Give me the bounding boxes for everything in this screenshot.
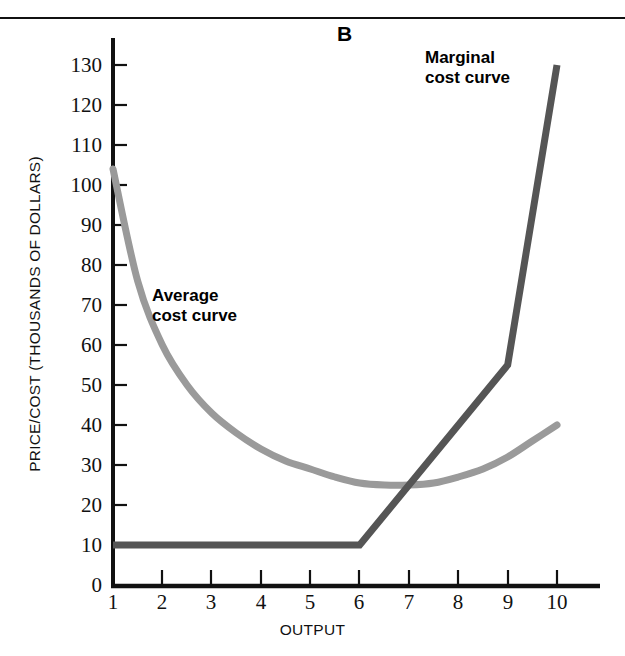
y-tick-label: 60: [44, 335, 102, 356]
y-tick-label: 80: [44, 255, 102, 276]
x-tick-label: 3: [191, 592, 231, 613]
y-tick-label: 70: [44, 295, 102, 316]
y-tick-label: 110: [44, 135, 102, 156]
y-tick-label: 100: [44, 175, 102, 196]
y-tick-label: 120: [44, 95, 102, 116]
x-tick-label: 8: [438, 592, 478, 613]
x-tick-label: 9: [488, 592, 528, 613]
x-tick-label: 5: [290, 592, 330, 613]
marginal-cost-curve-label: Marginal cost curve: [425, 48, 510, 88]
y-tick-label: 30: [44, 455, 102, 476]
y-tick-marks: [113, 65, 127, 545]
cost-curves-figure: B PRICE/COST (THOUSANDS OF DOLLARS) OUTP…: [0, 0, 625, 656]
x-tick-label: 6: [339, 592, 379, 613]
x-tick-label: 10: [537, 592, 577, 613]
x-tick-label: 1: [93, 592, 133, 613]
y-tick-label: 90: [44, 215, 102, 236]
x-tick-label: 7: [389, 592, 429, 613]
y-tick-label: 50: [44, 375, 102, 396]
x-tick-label: 4: [241, 592, 281, 613]
y-tick-label: 40: [44, 415, 102, 436]
average-cost-curve-label: Average cost curve: [152, 286, 237, 326]
y-tick-label: 20: [44, 495, 102, 516]
x-tick-marks: [162, 570, 557, 586]
average-cost-curve: [113, 169, 557, 485]
y-tick-label: 130: [44, 55, 102, 76]
x-tick-label: 2: [142, 592, 182, 613]
y-tick-label: 10: [44, 535, 102, 556]
